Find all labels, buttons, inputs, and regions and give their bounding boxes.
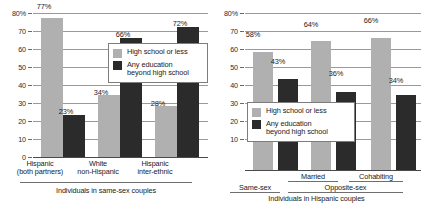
x-category-married: Married — [287, 172, 339, 181]
legend-swatch-light-icon — [252, 108, 261, 117]
married-underline-rule — [288, 181, 338, 182]
x-category-white-non-hispanic: White non-Hispanic — [69, 160, 127, 177]
tick-mark — [240, 139, 244, 140]
tick-mark — [28, 121, 32, 122]
gridline-60 — [245, 49, 421, 50]
bar-dark-hispanic-both — [63, 115, 85, 156]
y-tick-60: 60 — [212, 45, 238, 54]
y-tick-30: 30 — [0, 99, 26, 108]
tick-mark — [240, 121, 244, 122]
x-axis-line — [33, 157, 208, 158]
tick-mark — [28, 85, 32, 86]
chart-panel-hispanic-couples: 80% 70 60 50 40 30 20 10 — [212, 0, 426, 205]
gridline-70 — [245, 31, 421, 32]
y-tick-40: 40 — [0, 81, 26, 90]
chart-panel-same-sex-couples: 80% 70 60 50 40 30 20 10 0 — [0, 0, 212, 205]
tick-mark — [28, 157, 32, 158]
same-sex-underline-rule — [230, 192, 280, 193]
tick-mark — [28, 103, 32, 104]
legend-row-high-school-or-less: High school or less — [252, 107, 349, 117]
value-label-34: 34% — [84, 88, 118, 97]
legend-row-high-school-or-less: High school or less — [113, 48, 202, 58]
dual-bar-chart-figure: 80% 70 60 50 40 30 20 10 0 — [0, 0, 426, 205]
value-label-23: 23% — [49, 107, 83, 116]
value-label-72: 72% — [163, 19, 197, 28]
tick-mark — [240, 13, 244, 14]
legend-label-high-school-or-less: High school or less — [127, 48, 188, 57]
bar-light-hispanic-both — [41, 18, 63, 157]
y-tick-40: 40 — [212, 81, 238, 90]
legend-label-beyond-high-school: Any education beyond high school — [266, 120, 328, 137]
tick-mark — [240, 67, 244, 68]
legend-row-beyond-high-school: Any education beyond high school — [113, 61, 202, 78]
legend-label-beyond-high-school: Any education beyond high school — [127, 61, 189, 78]
y-tick-70: 70 — [0, 27, 26, 36]
x-axis-title: Individuals in Hispanic couples — [230, 194, 403, 203]
legend-label-high-school-or-less: High school or less — [266, 107, 327, 116]
tick-mark — [28, 49, 32, 50]
legend-swatch-light-icon — [113, 49, 122, 58]
value-label-58: 58% — [236, 30, 270, 39]
value-label-36: 36% — [319, 69, 353, 78]
y-tick-70: 70 — [212, 27, 238, 36]
legend: High school or less Any education beyond… — [108, 43, 208, 83]
value-label-64: 64% — [294, 20, 328, 29]
value-label-66: 66% — [106, 30, 140, 39]
bar-light-cohabiting — [371, 38, 391, 170]
bar-dark-cohabiting — [396, 95, 416, 169]
legend-swatch-dark-icon — [113, 61, 122, 70]
y-tick-80: 80% — [212, 9, 238, 18]
x-category-cohabiting: Cohabiting — [346, 172, 406, 181]
axis-bracket-rule — [20, 182, 192, 183]
x-category-hispanic-inter-ethnic: Hispanic inter-ethnic — [126, 160, 184, 177]
value-label-28: 28% — [141, 99, 175, 108]
x-axis-title: Individuals in same-sex couples — [20, 186, 192, 195]
legend: High school or less Any education beyond… — [247, 102, 355, 142]
x-group-same-sex: Same-sex — [229, 183, 281, 192]
value-label-34: 34% — [379, 76, 413, 85]
cohabiting-underline-rule — [349, 181, 403, 182]
tick-mark — [28, 67, 32, 68]
tick-mark — [28, 139, 32, 140]
tick-mark — [240, 103, 244, 104]
tick-mark — [240, 85, 244, 86]
legend-row-beyond-high-school: Any education beyond high school — [252, 120, 349, 137]
y-tick-80: 80% — [0, 9, 26, 18]
gridline-80 — [245, 13, 421, 14]
y-tick-20: 20 — [212, 117, 238, 126]
x-category-hispanic-both: Hispanic (both partners) — [11, 160, 69, 177]
y-tick-20: 20 — [0, 117, 26, 126]
y-tick-30: 30 — [212, 99, 238, 108]
bar-light-hispanic-inter-ethnic — [155, 106, 177, 156]
legend-swatch-dark-icon — [252, 120, 261, 129]
tick-mark — [240, 49, 244, 50]
value-label-77: 77% — [27, 2, 61, 11]
gridline-80 — [33, 13, 208, 14]
x-axis-line — [245, 170, 421, 171]
y-tick-60: 60 — [0, 45, 26, 54]
y-tick-50: 50 — [0, 63, 26, 72]
tick-mark — [28, 13, 32, 14]
tick-mark — [28, 31, 32, 32]
bar-light-white-non-hispanic — [98, 95, 120, 156]
opposite-sex-underline-rule — [288, 192, 403, 193]
y-tick-50: 50 — [212, 63, 238, 72]
value-label-43: 43% — [261, 57, 295, 66]
x-group-opposite-sex: Opposite-sex — [288, 183, 403, 192]
y-tick-10: 10 — [0, 135, 26, 144]
plot-area — [245, 13, 421, 170]
value-label-66: 66% — [354, 16, 388, 25]
y-tick-10: 10 — [212, 135, 238, 144]
